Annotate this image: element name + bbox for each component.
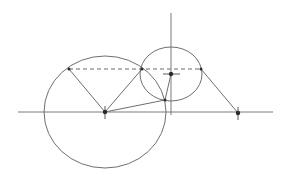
lower-point-point (164, 99, 167, 102)
intersection-top-point (141, 68, 144, 71)
right-slant-segment (201, 69, 238, 113)
right-point-point (236, 111, 240, 115)
lower-point-to-small-center-segment (165, 74, 171, 100)
points-group (68, 68, 241, 116)
geometry-diagram (0, 0, 286, 181)
small-center-point (169, 72, 173, 76)
segments-group (69, 69, 238, 113)
left-top-point-point (68, 68, 71, 71)
right-top-point-point (200, 68, 203, 71)
left-chord-segment (69, 69, 105, 112)
large-center-point (103, 110, 107, 114)
